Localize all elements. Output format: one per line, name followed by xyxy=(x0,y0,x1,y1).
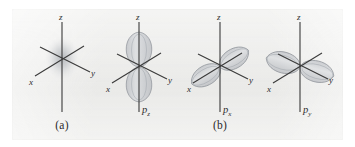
z-axis-label: z xyxy=(135,12,140,22)
z-axis-label: z xyxy=(216,12,221,22)
orbital-figure: z y x (a) z xyxy=(0,0,355,147)
panel-px-orbital: z y x px (b) xyxy=(178,9,262,140)
y-axis-label: y xyxy=(167,75,172,85)
x-axis-label: x xyxy=(266,84,271,94)
px-orbital-label: px xyxy=(223,104,231,118)
x-axis-label: x xyxy=(186,84,191,94)
z-axis-label: z xyxy=(296,12,301,22)
py-orbital-diagram: z y x xyxy=(258,9,342,140)
panel-py-orbital: z y x py xyxy=(258,9,342,140)
pz-orbital-diagram: z y x xyxy=(97,9,181,140)
x-axis-label: x xyxy=(105,84,110,94)
panel-s-orbital: z y x (a) xyxy=(20,9,104,140)
py-orbital-label: py xyxy=(303,104,311,118)
y-axis-label: y xyxy=(90,68,95,78)
z-axis-label: z xyxy=(58,12,63,22)
y-axis-label: y xyxy=(328,75,333,85)
y-axis-label: y xyxy=(248,75,253,85)
caption-a: (a) xyxy=(20,119,104,131)
caption-b: (b) xyxy=(178,119,262,131)
x-axis-label: x xyxy=(28,77,33,87)
pz-orbital-label: pz xyxy=(142,104,150,118)
panel-pz-orbital: z y x pz xyxy=(97,9,181,140)
